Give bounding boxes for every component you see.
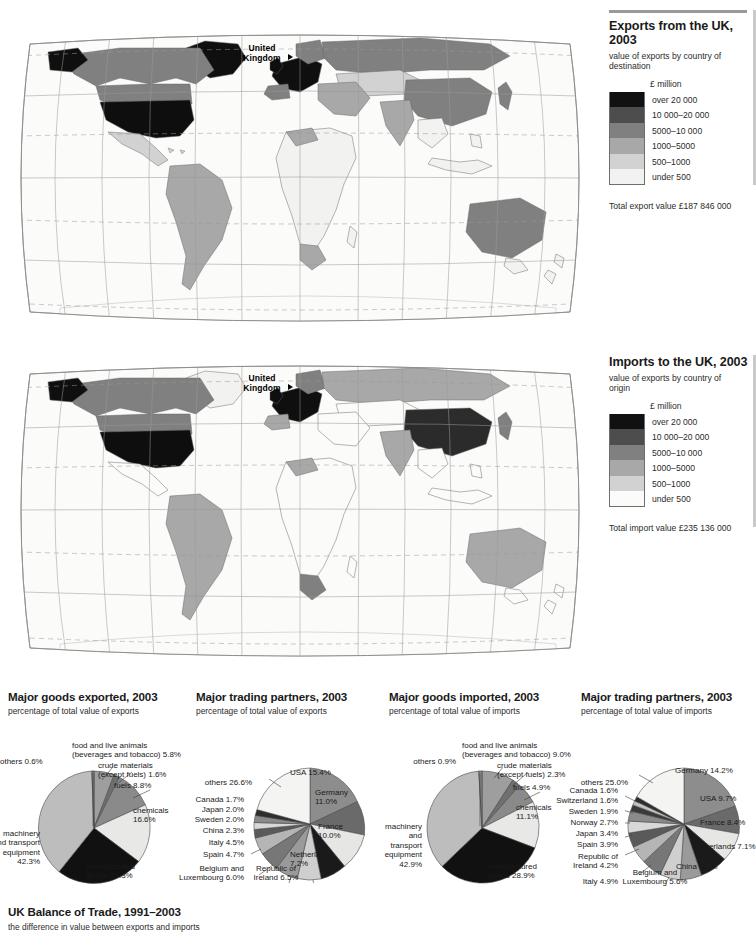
footer-subtitle: the difference in value between exports … [8,922,200,932]
chart-block-trading-partners-imports: Major trading partners, 2003 percentage … [581,690,756,716]
pie-label-usa-imports: USA 9.7% [700,794,736,803]
exports-total-value: Total export value £187 846 000 [609,201,756,211]
legend-swatch-label: 1000–5000 [645,141,695,151]
legend-swatch-label: 1000–5000 [645,463,695,473]
pie-label-republic-ireland-imports: Republic of Ireland 4.2% [552,852,618,871]
pie-label-belgium-luxembourg-exports: Belgium and Luxembourg 6.0% [178,864,244,883]
imports-map-frame[interactable] [0,352,600,682]
legend-swatch [609,154,645,170]
legend-top-rule [609,10,747,13]
pie-label-netherlands-imports: Netherlands 7.1% [692,842,756,851]
legend-swatch [609,169,645,185]
pie-label-machinery-transport: machinery and transport equipment 42.3% [0,829,40,867]
legend-swatch [609,476,645,492]
pie-label-manufactured-goods: manufactured goods 24.3% [86,862,135,881]
pie-label-china-exports: China 2.3% [178,826,244,835]
pie-label-usa-exports: USA 15.4% [290,768,331,777]
pie-label-republic-ireland-exports: Republic of Ireland 6.5% [245,864,307,883]
pie-label-germany-imports: Germany 14.2% [675,766,733,775]
exports-world-map[interactable] [0,8,600,348]
pie-label-chemicals-imported: chemicals 11.1% [516,803,552,822]
uk-map-label-imports: UnitedKingdom [238,374,286,393]
pie-label-japan-imports: Japan 3.4% [552,829,618,838]
exports-legend-subtitle: value of exports by country of destinati… [609,51,729,72]
exports-legend-unit: £ million [650,79,756,89]
legend-row: 500–1000 [609,154,756,170]
footer-section: UK Balance of Trade, 1991–2003 the diffe… [8,905,200,932]
pie-label-food-live-animals-imported: food and live animals (beverages and tob… [462,741,571,760]
legend-row: 10 000–20 000 [609,429,756,445]
pie-label-sweden-exports: Sweden 2.0% [178,815,244,824]
chart-title: Major trading partners, 2003 [581,690,756,703]
legend-swatch-label: 500–1000 [645,157,690,167]
legend-row: 5000–10 000 [609,445,756,461]
chart-title: Major goods exported, 2003 [8,690,188,703]
exports-legend-title: Exports from the UK, 2003 [609,19,756,47]
chart-subtitle: percentage of total value of imports [389,706,575,716]
imports-legend-subtitle: value of exports by country of origin [609,373,729,394]
chart-block-trading-partners-exports: Major trading partners, 2003 percentage … [196,690,382,716]
pie-label-others-imported-goods: others 0.9% [388,757,456,766]
pie-label-chemicals: chemicals 16.6% [133,806,169,825]
pie-label-sweden-imports: Sweden 1.9% [552,807,618,816]
pie-label-belgium-luxembourg-imports: Belgium and Luxembourg 5.6% [620,868,690,887]
uk-pointer-arrow-imports [288,384,293,390]
legend-swatch-label: 10 000–20 000 [645,110,709,120]
legend-swatch-label: under 500 [645,172,691,182]
chart-block-major-goods-exported: Major goods exported, 2003 percentage of… [8,690,188,716]
legend-row: under 500 [609,491,756,507]
uk-map-label-exports: UnitedKingdom [238,44,286,63]
pie-label-france-exports: France 10.0% [318,822,343,841]
pie-label-food-live-animals: food and live animals (beverages and tob… [72,741,181,760]
legend-row: 500–1000 [609,476,756,492]
pie-label-norway-imports: Norway 2.7% [552,818,618,827]
imports-legend-unit: £ million [650,401,756,411]
exports-legend: Exports from the UK, 2003 value of expor… [609,10,756,211]
pie-label-others-exported-goods: others 0.6% [0,757,68,766]
legend-row: 1000–5000 [609,460,756,476]
imports-total-value: Total import value £235 136 000 [609,523,756,533]
pie-label-fuels-imported: fuels 4.9% [513,783,550,792]
exports-map-panel: UnitedKingdom [0,8,600,348]
legend-swatch [609,92,645,108]
imports-world-map[interactable] [0,352,600,682]
legend-swatch-label: 500–1000 [645,479,690,489]
legend-swatch [609,460,645,476]
chart-block-major-goods-imported: Major goods imported, 2003 percentage of… [389,690,575,716]
legend-row: over 20 000 [609,414,756,430]
pie-label-others-partners-exports: others 26.6% [190,778,252,787]
footer-title: UK Balance of Trade, 1991–2003 [8,905,200,918]
pie-label-spain-imports: Spain 3.9% [552,840,618,849]
legend-swatch [609,445,645,461]
chart-subtitle: percentage of total value of exports [196,706,382,716]
pie-label-japan-exports: Japan 2.0% [178,805,244,814]
pie-label-manufactured-goods-imported: manufactured goods 28.9% [488,862,537,881]
pie-label-canada-exports: Canada 1.7% [178,795,244,804]
legend-row: under 500 [609,169,756,185]
legend-swatch [609,107,645,123]
legend-swatch-label: 5000–10 000 [645,126,702,136]
legend-swatch-label: 5000–10 000 [645,448,702,458]
pie-label-crude-materials-imported: crude materials (except fuels) 2.3% [497,761,565,780]
pie-label-italy-imports: Italy 4.9% [552,877,618,886]
legend-swatch-label: over 20 000 [645,95,697,105]
pie-label-france-imports: France 8.4% [700,818,745,827]
legend-row: 1000–5000 [609,138,756,154]
legend-swatch [609,491,645,507]
uk-pointer-arrow-exports [288,54,293,60]
legend-swatch [609,429,645,445]
chart-title: Major goods imported, 2003 [389,690,575,703]
imports-map-panel: UnitedKingdom [0,352,600,682]
chart-subtitle: percentage of total value of exports [8,706,188,716]
chart-title: Major trading partners, 2003 [196,690,382,703]
pie-label-germany-exports: Germany 11.0% [315,788,348,807]
legend-swatch [609,414,645,430]
legend-swatch-label: over 20 000 [645,417,697,427]
pie-label-switzerland-imports: Switzerland 1.6% [546,796,618,805]
chart-subtitle: percentage of total value of imports [581,706,756,716]
legend-row: 10 000–20 000 [609,107,756,123]
pie-label-fuels: fuels 8.8% [114,781,151,790]
exports-map-frame[interactable] [0,8,600,348]
imports-legend-title: Imports to the UK, 2003 [609,355,756,369]
legend-swatch-label: under 500 [645,494,691,504]
